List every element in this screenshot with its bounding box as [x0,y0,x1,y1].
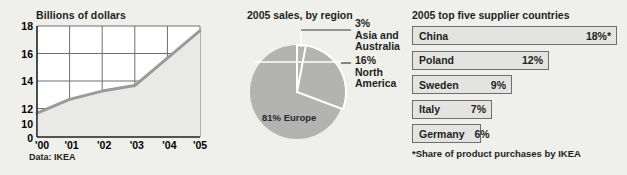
bar-row-china: China 18%* [412,26,617,45]
x-tick-label: '01 [65,139,79,151]
y-tick-label: 18 [21,20,33,32]
pie-label-asia-australia: 3% Asia and Australia [355,18,400,53]
pie-label-north-america: 16% North America [355,55,396,90]
bar-chart-footnote: *Share of product purchases by IKEA [412,148,581,159]
line-chart-svg: 18 16 14 12 10 0 '00 '01 '02 '03 '04 '05 [0,0,215,175]
bar-value: 12% [522,54,543,66]
bar-label: Sweden [419,79,459,91]
bar-row-sweden: Sweden 9% [412,75,512,94]
y-tick-label: 10 [21,118,33,130]
pie-label-asia-line2: Australia [355,41,400,53]
pie-chart-panel: 2005 sales, by region 3% Asia and Austra… [215,0,405,175]
pie-label-asia-pct: 3% [355,18,400,30]
x-tick-label: '02 [97,139,111,151]
x-tick-label: '05 [193,139,207,151]
line-chart-source: Data: IKEA [29,152,76,162]
pie-label-na-line2: America [355,78,396,90]
bar-row-italy: Italy 7% [412,100,492,119]
x-tick-label: '04 [162,139,176,151]
y-tick-label: 0 [27,132,33,144]
bar-label: Italy [419,103,440,115]
bar-value: 7% [471,103,486,115]
bar-value: 9% [491,79,506,91]
y-tick-label: 12 [21,103,33,115]
bar-row-poland: Poland 12% [412,51,549,70]
bar-value: 18%* [586,30,611,42]
x-tick-label: '00 [35,139,49,151]
bar-value: 6% [475,128,490,140]
bar-chart-title: 2005 top five supplier countries [412,9,570,21]
bar-label: Germany [419,128,465,140]
pie-label-europe: 81% Europe [262,112,316,123]
x-tick-label: '03 [130,139,144,151]
pie-label-na-pct: 16% [355,55,396,67]
supplier-countries-panel: 2005 top five supplier countries China 1… [405,0,627,175]
bar-label: Poland [419,54,454,66]
y-tick-label: 16 [21,48,33,60]
line-chart-panel: Billions of dollars 18 16 14 12 10 0 '00… [0,0,215,175]
y-tick-label: 14 [21,75,33,87]
bar-label: China [419,30,448,42]
bar-chart-list: China 18%* Poland 12% Sweden 9% Italy 7%… [412,26,624,149]
bar-row-germany: Germany 6% [412,124,481,143]
